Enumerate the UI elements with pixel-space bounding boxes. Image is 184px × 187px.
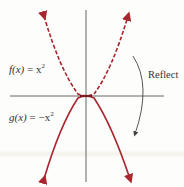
reflect-label: Reflect	[148, 69, 178, 80]
g-curve	[44, 96, 130, 179]
reflection-diagram: f(x) = x2 g(x) = −x2 Reflect	[0, 0, 184, 187]
g-function-name: g(x)	[9, 111, 27, 123]
f-function-name: f(x)	[9, 63, 24, 75]
g-label: g(x) = −x2	[9, 110, 54, 123]
f-exponent: 2	[41, 62, 45, 70]
f-label: f(x) = x2	[9, 62, 45, 75]
g-equation: = −x	[27, 111, 50, 123]
g-exponent: 2	[50, 110, 54, 118]
f-equation: = x	[24, 63, 41, 75]
reflect-arrow	[133, 56, 143, 134]
graph	[0, 0, 184, 187]
